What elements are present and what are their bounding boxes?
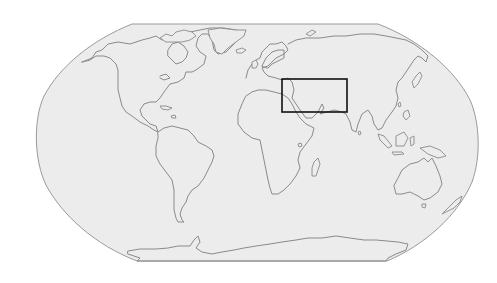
java <box>392 152 404 155</box>
great-britain <box>252 60 258 68</box>
hispaniola <box>171 115 176 118</box>
sri-lanka <box>358 131 361 135</box>
sulawesi <box>410 136 414 146</box>
lake-victoria <box>298 143 302 147</box>
world-map <box>0 0 497 283</box>
tasmania <box>422 204 426 208</box>
